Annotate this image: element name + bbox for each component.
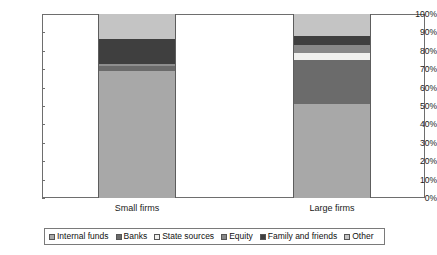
bar-segment-other[interactable] bbox=[294, 14, 370, 36]
y-axis-tick-label: 20% bbox=[397, 157, 437, 165]
bar-segment-other[interactable] bbox=[99, 14, 175, 39]
bar-segment-internal-funds[interactable] bbox=[99, 71, 175, 198]
legend-item-label: Internal funds bbox=[57, 232, 109, 241]
y-axis-tick-label: 100% bbox=[397, 10, 437, 18]
y-axis-tick-label: 10% bbox=[397, 176, 437, 184]
bar-segment-internal-funds[interactable] bbox=[294, 104, 370, 198]
legend-item-label: Family and friends bbox=[268, 232, 337, 241]
y-axis-tick-label: 70% bbox=[397, 65, 437, 73]
chart-legend: Internal fundsBanksState sourcesEquityFa… bbox=[44, 228, 385, 245]
legend-item-state-sources[interactable]: State sources bbox=[154, 232, 214, 241]
y-axis-tick-mark bbox=[42, 88, 45, 89]
legend-swatch-icon bbox=[221, 234, 227, 240]
legend-item-label: Banks bbox=[124, 232, 148, 241]
legend-swatch-icon bbox=[154, 234, 160, 240]
bar-segment-family-and-friends[interactable] bbox=[99, 39, 175, 64]
y-axis-tick-label: 50% bbox=[397, 102, 437, 110]
category-label-small-firms: Small firms bbox=[67, 203, 207, 213]
category-label-large-firms: Large firms bbox=[262, 203, 402, 213]
y-axis-tick-label: 90% bbox=[397, 28, 437, 36]
legend-item-equity[interactable]: Equity bbox=[221, 232, 253, 241]
legend-item-label: State sources bbox=[162, 232, 214, 241]
y-axis-tick-label: 60% bbox=[397, 84, 437, 92]
y-axis-tick-mark bbox=[42, 32, 45, 33]
y-axis-tick-mark bbox=[42, 51, 45, 52]
bar-segment-family-and-friends[interactable] bbox=[294, 36, 370, 45]
chart-container: 100%90%80%70%60%50%40%30%20%10%0% Small … bbox=[0, 0, 437, 255]
bar-segment-equity[interactable] bbox=[294, 45, 370, 52]
y-axis-tick-mark bbox=[42, 143, 45, 144]
y-axis-tick-mark bbox=[42, 180, 45, 181]
y-axis-tick-label: 0% bbox=[397, 194, 437, 202]
bar-small-firms[interactable] bbox=[98, 14, 176, 198]
y-axis-tick-mark bbox=[42, 161, 45, 162]
legend-swatch-icon bbox=[344, 234, 350, 240]
legend-item-label: Equity bbox=[229, 232, 253, 241]
legend-item-family-and-friends[interactable]: Family and friends bbox=[260, 232, 337, 241]
y-axis-tick-label: 80% bbox=[397, 47, 437, 55]
y-axis-tick-mark bbox=[42, 69, 45, 70]
legend-item-other[interactable]: Other bbox=[344, 232, 373, 241]
legend-swatch-icon bbox=[116, 234, 122, 240]
y-axis-tick-mark bbox=[42, 124, 45, 125]
legend-swatch-icon bbox=[260, 234, 266, 240]
legend-item-internal-funds[interactable]: Internal funds bbox=[49, 232, 109, 241]
legend-item-label: Other bbox=[352, 232, 373, 241]
y-axis-tick-label: 40% bbox=[397, 120, 437, 128]
bar-large-firms[interactable] bbox=[293, 14, 371, 198]
legend-swatch-icon bbox=[49, 234, 55, 240]
bar-segment-banks[interactable] bbox=[294, 60, 370, 104]
y-axis-tick-mark bbox=[42, 106, 45, 107]
y-axis-tick-label: 30% bbox=[397, 139, 437, 147]
y-axis-tick-mark bbox=[42, 198, 45, 199]
bar-segment-state-sources[interactable] bbox=[294, 53, 370, 60]
legend-item-banks[interactable]: Banks bbox=[116, 232, 148, 241]
